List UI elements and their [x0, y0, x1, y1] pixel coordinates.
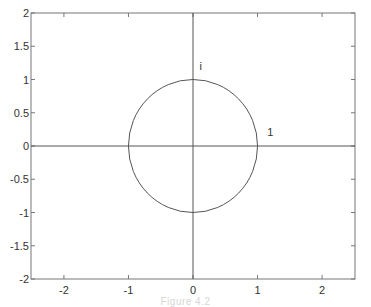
- y-tick-label: -0.5: [10, 173, 29, 185]
- y-tick-label: 2: [23, 7, 29, 19]
- x-tick-label: -2: [59, 284, 69, 296]
- annotation-label: i: [199, 60, 201, 72]
- y-tick-label: -2: [19, 273, 29, 285]
- plot-area: -2-1012-2-1.5-1-0.500.511.52i1: [10, 7, 355, 296]
- x-tick-label: 1: [254, 284, 260, 296]
- chart-canvas: -2-1012-2-1.5-1-0.500.511.52i1: [0, 0, 371, 307]
- x-tick-label: -1: [124, 284, 134, 296]
- x-tick-label: 0: [190, 284, 196, 296]
- y-tick-label: 0.5: [14, 107, 29, 119]
- y-tick-label: 1.5: [14, 40, 29, 52]
- x-tick-label: 2: [319, 284, 325, 296]
- y-tick-label: 0: [23, 140, 29, 152]
- y-tick-label: -1: [19, 207, 29, 219]
- annotation-label: 1: [267, 126, 273, 138]
- y-tick-label: -1.5: [10, 240, 29, 252]
- figure-caption: Figure 4.2: [0, 296, 371, 307]
- y-tick-label: 1: [23, 74, 29, 86]
